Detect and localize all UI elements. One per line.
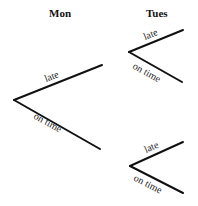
label-tues1-on-time: on time bbox=[131, 60, 163, 85]
label-tues1-late: late bbox=[142, 26, 160, 42]
label-mon-on-time: on time bbox=[32, 110, 64, 135]
branch-mon-late bbox=[14, 65, 102, 100]
probability-tree: late on time late on time late on time bbox=[0, 0, 198, 206]
